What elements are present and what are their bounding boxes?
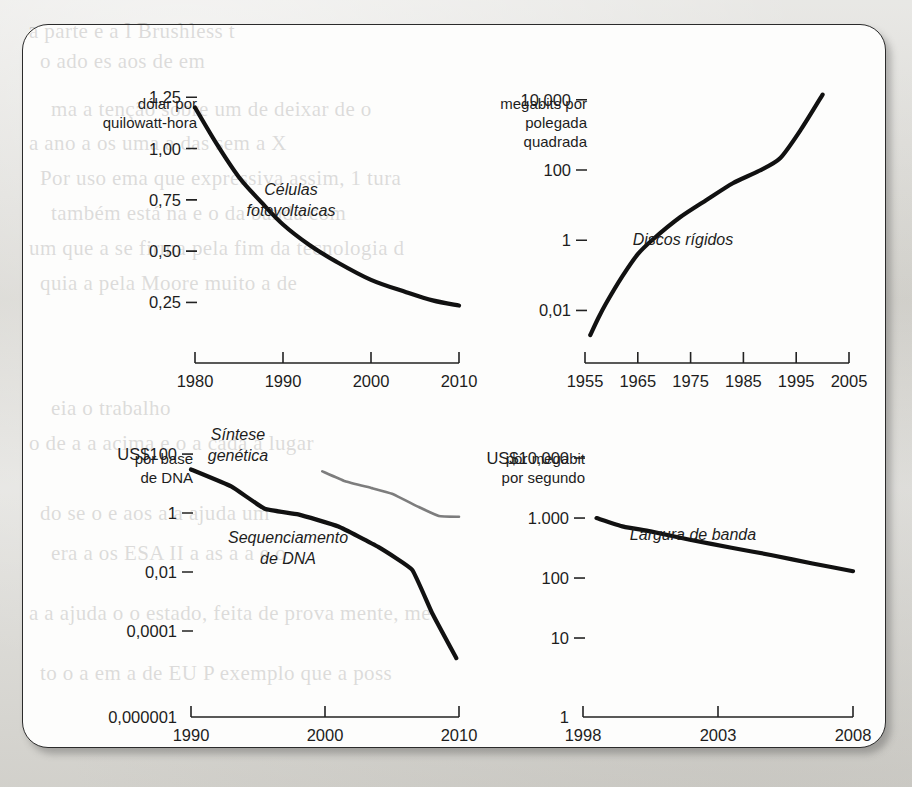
x-axis-tick-label: 1990 xyxy=(173,726,210,744)
y-axis-unit-label: por segundo xyxy=(502,469,585,486)
chart-dna-cost: US$10010,010,00010,000001por basede DNA1… xyxy=(23,380,463,740)
series-inline-label: Sequenciamento xyxy=(228,529,348,546)
series-inline-label: Largura de banda xyxy=(630,526,756,543)
y-axis-unit-label: por megabit xyxy=(506,450,586,467)
y-axis-tick-label: 0,25 xyxy=(149,293,181,311)
chart-hard-disks: 10.00010010,01megabits porpolegadaquadra… xyxy=(443,25,885,395)
chart-hard-disks-svg: 10.00010010,01megabits porpolegadaquadra… xyxy=(443,25,885,395)
y-axis-tick-label: 1 xyxy=(562,231,571,249)
x-axis-tick-label: 2003 xyxy=(700,726,737,744)
y-axis-tick-label: 0,01 xyxy=(539,301,571,319)
y-axis-tick-label: 0,000001 xyxy=(108,708,177,726)
y-axis-tick-label: 100 xyxy=(543,161,571,179)
y-axis-unit-label: polegada xyxy=(525,114,587,131)
data-series-line xyxy=(322,471,459,516)
y-axis-tick-label: 1 xyxy=(560,708,569,726)
y-axis-tick-label: 1,00 xyxy=(149,140,181,158)
y-axis-unit-label: quadrada xyxy=(524,133,588,150)
y-axis-unit-label: de DNA xyxy=(140,469,193,486)
chart-bandwidth-cost: US$10,0001.000100101por megabitpor segun… xyxy=(443,380,885,740)
x-axis-tick-label: 1998 xyxy=(565,726,602,744)
x-axis-tick-label: 2008 xyxy=(835,726,872,744)
y-axis-unit-label: megabits por xyxy=(500,95,587,112)
figure-panel: a parte e a I Brushless to ado es aos de… xyxy=(22,24,886,748)
data-series-line xyxy=(590,95,822,335)
y-axis-tick-label: 100 xyxy=(541,569,569,587)
y-axis-tick-label: 1 xyxy=(168,504,177,522)
chart-dna-cost-svg: US$10010,010,00010,000001por basede DNA1… xyxy=(23,380,463,740)
series-inline-label: Síntese xyxy=(211,426,265,443)
chart-bandwidth-cost-svg: US$10,0001.000100101por megabitpor segun… xyxy=(443,380,885,740)
y-axis-tick-label: 0,50 xyxy=(149,242,181,260)
y-axis-tick-label: 0,0001 xyxy=(127,622,177,640)
y-axis-unit-label: dólar por xyxy=(138,95,197,112)
y-axis-tick-label: 0,75 xyxy=(149,191,181,209)
y-axis-tick-label: 10 xyxy=(551,629,569,647)
series-inline-label: Discos rígidos xyxy=(633,231,733,248)
chart-photovoltaic-cells-svg: 1,251,000,750,500,25dólar porquilowatt-h… xyxy=(23,25,463,395)
series-inline-label: de DNA xyxy=(260,550,316,567)
series-inline-label: genética xyxy=(208,447,269,464)
x-axis-tick-label: 2000 xyxy=(307,726,344,744)
y-axis-unit-label: quilowatt-hora xyxy=(103,114,198,131)
y-axis-tick-label: 0,01 xyxy=(145,563,177,581)
series-inline-label: Células xyxy=(264,181,317,198)
series-inline-label: fotovoltaicas xyxy=(247,202,336,219)
data-series-line xyxy=(191,469,456,658)
y-axis-tick-label: 1.000 xyxy=(528,509,569,527)
y-axis-unit-label: por base xyxy=(135,450,193,467)
chart-photovoltaic-cells: 1,251,000,750,500,25dólar porquilowatt-h… xyxy=(23,25,463,395)
